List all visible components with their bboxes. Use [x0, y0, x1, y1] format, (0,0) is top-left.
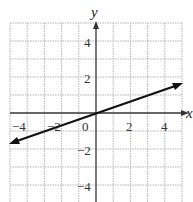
x-tick-neg2: −2 [47, 119, 61, 134]
x-tick-2: 2 [126, 119, 133, 134]
coordinate-plane: x y −4 −2 0 2 4 4 2 −2 −4 [0, 0, 193, 202]
y-tick-neg2: −2 [77, 143, 91, 158]
y-axis-arrow-icon [93, 21, 99, 29]
x-tick-0: 0 [82, 119, 89, 134]
x-axis-label: x [185, 105, 193, 121]
y-axis [93, 21, 99, 202]
x-tick-4: 4 [161, 119, 168, 134]
y-tick-4: 4 [84, 35, 91, 50]
y-tick-neg4: −4 [77, 179, 91, 194]
y-tick-2: 2 [84, 71, 91, 86]
x-tick-neg4: −4 [12, 119, 26, 134]
y-axis-label: y [89, 4, 98, 20]
line-arrow-right-icon [172, 83, 183, 90]
line-arrow-left-icon [9, 137, 20, 144]
